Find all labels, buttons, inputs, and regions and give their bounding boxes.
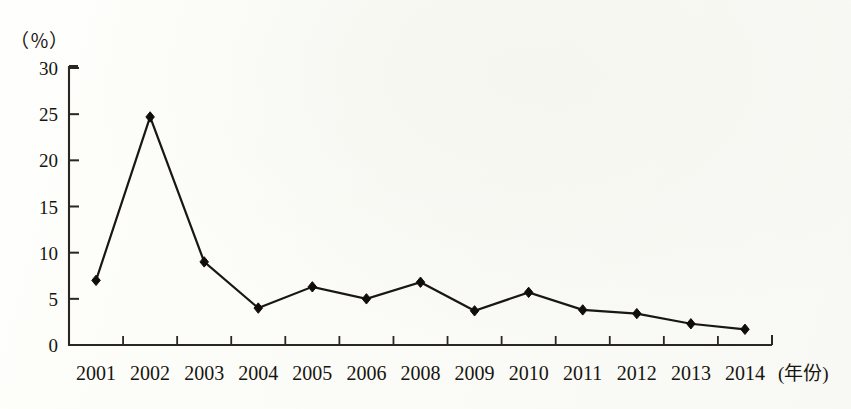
data-point-marker bbox=[633, 308, 642, 318]
y-axis-tick-label: 5 bbox=[49, 289, 59, 310]
x-axis-tick-label: 2009 bbox=[455, 362, 495, 384]
x-axis-tick-label: 2004 bbox=[238, 362, 278, 384]
y-axis-tick-label: 30 bbox=[39, 58, 58, 79]
x-axis-tick-label: 2011 bbox=[563, 362, 602, 384]
x-axis-tick-labels: 2001200220032004200520062008200920102011… bbox=[76, 362, 765, 384]
x-axis-tick-label: 2012 bbox=[617, 362, 657, 384]
x-axis-tick-label: 2008 bbox=[401, 362, 441, 384]
data-point-marker bbox=[308, 282, 317, 292]
y-axis-tick-labels: 051015202530 bbox=[39, 58, 58, 356]
chart-page: （％） 051015202530 20012002200320042005200… bbox=[0, 0, 851, 409]
data-point-marker bbox=[92, 275, 101, 285]
y-axis-tick-label: 20 bbox=[39, 150, 58, 171]
data-point-marker bbox=[687, 319, 696, 329]
data-point-marker bbox=[578, 305, 587, 315]
data-point-marker bbox=[362, 294, 371, 304]
y-axis-ticks bbox=[69, 68, 79, 345]
x-axis-tick-label: 2005 bbox=[292, 362, 332, 384]
x-axis-tick-label: 2001 bbox=[76, 362, 116, 384]
data-point-marker bbox=[741, 324, 750, 334]
x-axis-tick-label: 2010 bbox=[509, 362, 549, 384]
x-axis-tick-label: 2006 bbox=[346, 362, 386, 384]
data-line-series bbox=[96, 117, 745, 329]
x-axis-caption: (年份) bbox=[778, 363, 829, 385]
x-axis-tick-label: 2013 bbox=[671, 362, 711, 384]
x-axis-tick-label: 2003 bbox=[184, 362, 224, 384]
data-point-marker bbox=[146, 112, 155, 122]
y-axis-tick-label: 25 bbox=[39, 104, 58, 125]
data-point-marker bbox=[416, 277, 425, 287]
data-point-marker bbox=[524, 287, 533, 297]
y-axis-tick-label: 15 bbox=[39, 197, 58, 218]
y-axis-tick-label: 10 bbox=[39, 243, 58, 264]
y-axis-tick-label: 0 bbox=[49, 335, 59, 356]
x-axis-tick-label: 2002 bbox=[130, 362, 170, 384]
line-chart-plot: 051015202530 200120022003200420052006200… bbox=[0, 0, 851, 409]
x-axis-tick-label: 2014 bbox=[725, 362, 765, 384]
x-axis-ticks bbox=[123, 336, 718, 345]
data-point-marker bbox=[470, 306, 479, 316]
